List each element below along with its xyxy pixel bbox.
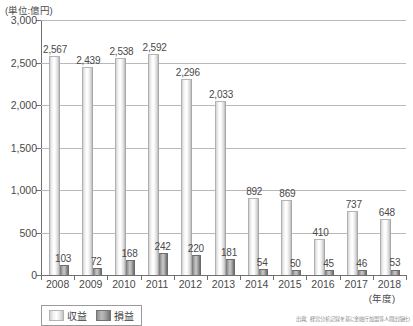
- x-axis-label-2017: 2017: [345, 278, 368, 290]
- bar-revenue-2016: [314, 239, 325, 275]
- bar-profit-2018: [391, 270, 400, 276]
- y-axis-tick-label: 2,500: [11, 57, 37, 69]
- value-label-profit-2008: 103: [55, 253, 71, 264]
- x-tick-mark: [107, 275, 108, 280]
- value-label-revenue-2012: 2,296: [176, 67, 200, 78]
- x-axis-unit-label: (年度): [369, 291, 395, 305]
- bar-profit-2017: [358, 270, 367, 275]
- x-axis-label-2013: 2013: [212, 278, 235, 290]
- x-tick-mark: [74, 275, 75, 280]
- source-note: 出典：経営分析記録を基に金融庁加盟等人間出版社): [296, 315, 410, 322]
- bar-profit-2014: [259, 269, 268, 275]
- bar-revenue-2008: [49, 56, 60, 275]
- x-axis-label-2012: 2012: [179, 278, 202, 290]
- profit-swatch-icon: [96, 310, 111, 321]
- value-label-profit-2018: 53: [390, 257, 401, 268]
- bar-profit-2016: [325, 270, 334, 275]
- x-axis-label-2014: 2014: [245, 278, 268, 290]
- x-tick-mark: [340, 275, 341, 280]
- legend-label-revenue: 収益: [67, 308, 87, 323]
- y-axis-tick-label: 0: [31, 269, 37, 281]
- value-label-revenue-2017: 737: [346, 199, 362, 210]
- revenue-profit-bar-chart: (単位:億円) 05001,0001,5002,0002,5003,0002,5…: [0, 0, 413, 326]
- plot-area: 05001,0001,5002,0002,5003,0002,5671032,4…: [41, 20, 406, 275]
- value-label-revenue-2010: 2,538: [109, 46, 133, 57]
- bar-profit-2008: [60, 265, 69, 275]
- x-tick-mark: [306, 275, 307, 280]
- bar-revenue-2010: [115, 58, 126, 275]
- value-label-profit-2014: 54: [257, 257, 268, 268]
- x-axis-label-2016: 2016: [311, 278, 334, 290]
- revenue-swatch-icon: [49, 310, 64, 321]
- value-label-profit-2015: 50: [290, 258, 301, 269]
- value-label-revenue-2009: 2,439: [76, 55, 100, 66]
- x-axis-label-2018: 2018: [378, 278, 401, 290]
- x-tick-mark: [406, 275, 407, 280]
- x-tick-mark: [41, 275, 42, 280]
- y-axis-tick-label: 1,500: [11, 142, 37, 154]
- value-label-revenue-2014: 892: [246, 186, 262, 197]
- legend-item-revenue: 収益: [49, 308, 87, 323]
- value-label-profit-2010: 168: [121, 248, 137, 259]
- value-label-profit-2009: 72: [91, 256, 102, 267]
- x-tick-mark: [273, 275, 274, 280]
- gridline: [41, 275, 406, 276]
- legend-item-profit: 損益: [96, 308, 134, 323]
- x-axis-label-2008: 2008: [46, 278, 69, 290]
- x-tick-mark: [207, 275, 208, 280]
- x-axis-label-2011: 2011: [146, 278, 169, 290]
- x-tick-mark: [373, 275, 374, 280]
- value-label-revenue-2018: 648: [379, 207, 395, 218]
- x-axis-label-2010: 2010: [112, 278, 135, 290]
- gridline: [41, 20, 406, 21]
- x-axis-label-2009: 2009: [79, 278, 102, 290]
- bar-profit-2011: [159, 253, 168, 275]
- value-label-revenue-2016: 410: [312, 227, 328, 238]
- y-axis-tick-label: 500: [19, 227, 37, 239]
- bar-profit-2010: [126, 260, 135, 275]
- y-axis-tick-label: 3,000: [11, 14, 37, 26]
- bar-profit-2013: [226, 259, 235, 275]
- bar-profit-2009: [93, 268, 102, 275]
- x-axis-label-2015: 2015: [278, 278, 301, 290]
- value-label-profit-2012: 220: [188, 243, 204, 254]
- value-label-profit-2013: 181: [221, 247, 237, 258]
- x-tick-mark: [141, 275, 142, 280]
- x-tick-mark: [240, 275, 241, 280]
- legend-label-profit: 損益: [114, 308, 134, 323]
- x-tick-mark: [174, 275, 175, 280]
- chart-legend: 収益 損益: [41, 305, 142, 326]
- value-label-revenue-2008: 2,567: [43, 44, 67, 55]
- value-label-profit-2016: 45: [323, 258, 334, 269]
- value-label-revenue-2015: 869: [279, 188, 295, 199]
- bar-profit-2012: [192, 255, 201, 275]
- value-label-revenue-2011: 2,592: [143, 42, 167, 53]
- y-axis-tick-label: 1,000: [11, 184, 37, 196]
- value-label-revenue-2013: 2,033: [209, 89, 233, 100]
- bar-profit-2015: [292, 270, 301, 275]
- value-label-profit-2017: 46: [356, 258, 367, 269]
- bar-revenue-2009: [82, 67, 93, 275]
- y-axis-tick-label: 2,000: [11, 99, 37, 111]
- value-label-profit-2011: 242: [155, 241, 171, 252]
